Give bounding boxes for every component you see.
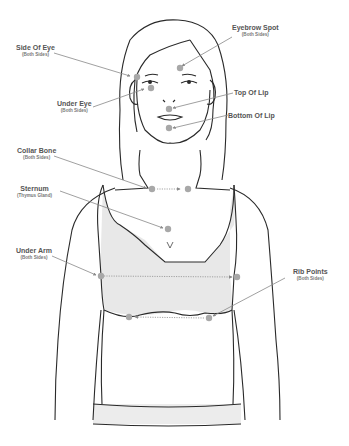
- point-top-of-lip: [166, 106, 172, 112]
- label-subtitle: (Thymus Gland): [17, 194, 52, 199]
- point-bottom-of-lip: [166, 125, 172, 131]
- head-outline: [55, 20, 280, 426]
- label-subtitle: (Both Sides): [17, 156, 56, 161]
- label-title: Sternum: [17, 185, 52, 192]
- label-eyebrow-spot: Eyebrow Spot (Both Sides): [232, 24, 279, 37]
- label-subtitle: (Both Sides): [16, 53, 55, 58]
- label-subtitle: (Both Sides): [16, 256, 52, 261]
- point-rib-left: [126, 314, 132, 320]
- label-title: Eyebrow Spot: [232, 24, 279, 31]
- point-eyebrow-spot: [177, 65, 183, 71]
- label-title: Collar Bone: [17, 147, 56, 154]
- label-subtitle: (Both Sides): [232, 33, 279, 38]
- point-rib-right: [206, 315, 212, 321]
- label-subtitle: (Both Sides): [57, 109, 92, 114]
- label-title: Rib Points: [293, 268, 328, 275]
- label-rib-points: Rib Points (Both Sides): [293, 268, 328, 281]
- label-title: Side Of Eye: [16, 44, 55, 51]
- top-garment: [100, 185, 235, 315]
- label-under-arm: Under Arm (Both Sides): [16, 247, 52, 260]
- point-under-arm-right: [234, 274, 240, 280]
- point-collar-bone-right: [185, 186, 191, 192]
- label-title: Under Arm: [16, 247, 52, 254]
- label-title: Under Eye: [57, 100, 92, 107]
- label-top-of-lip: Top Of Lip: [234, 89, 268, 96]
- label-title: Bottom Of Lip: [228, 112, 275, 119]
- label-title: Top Of Lip: [234, 89, 268, 96]
- point-collar-bone-left: [149, 186, 155, 192]
- label-sternum: Sternum (Thymus Gland): [17, 185, 52, 198]
- point-side-of-eye: [134, 74, 140, 80]
- label-under-eye: Under Eye (Both Sides): [57, 100, 92, 113]
- point-sternum: [165, 226, 171, 232]
- point-under-eye: [148, 85, 154, 91]
- label-collar-bone: Collar Bone (Both Sides): [17, 147, 56, 160]
- label-side-of-eye: Side Of Eye (Both Sides): [16, 44, 55, 57]
- body-outline-illustration: [0, 0, 349, 446]
- tapping-points-diagram: Eyebrow Spot (Both Sides) Side Of Eye (B…: [0, 0, 349, 446]
- label-subtitle: (Both Sides): [293, 277, 328, 282]
- label-bottom-of-lip: Bottom Of Lip: [228, 112, 275, 119]
- point-under-arm-left: [98, 273, 104, 279]
